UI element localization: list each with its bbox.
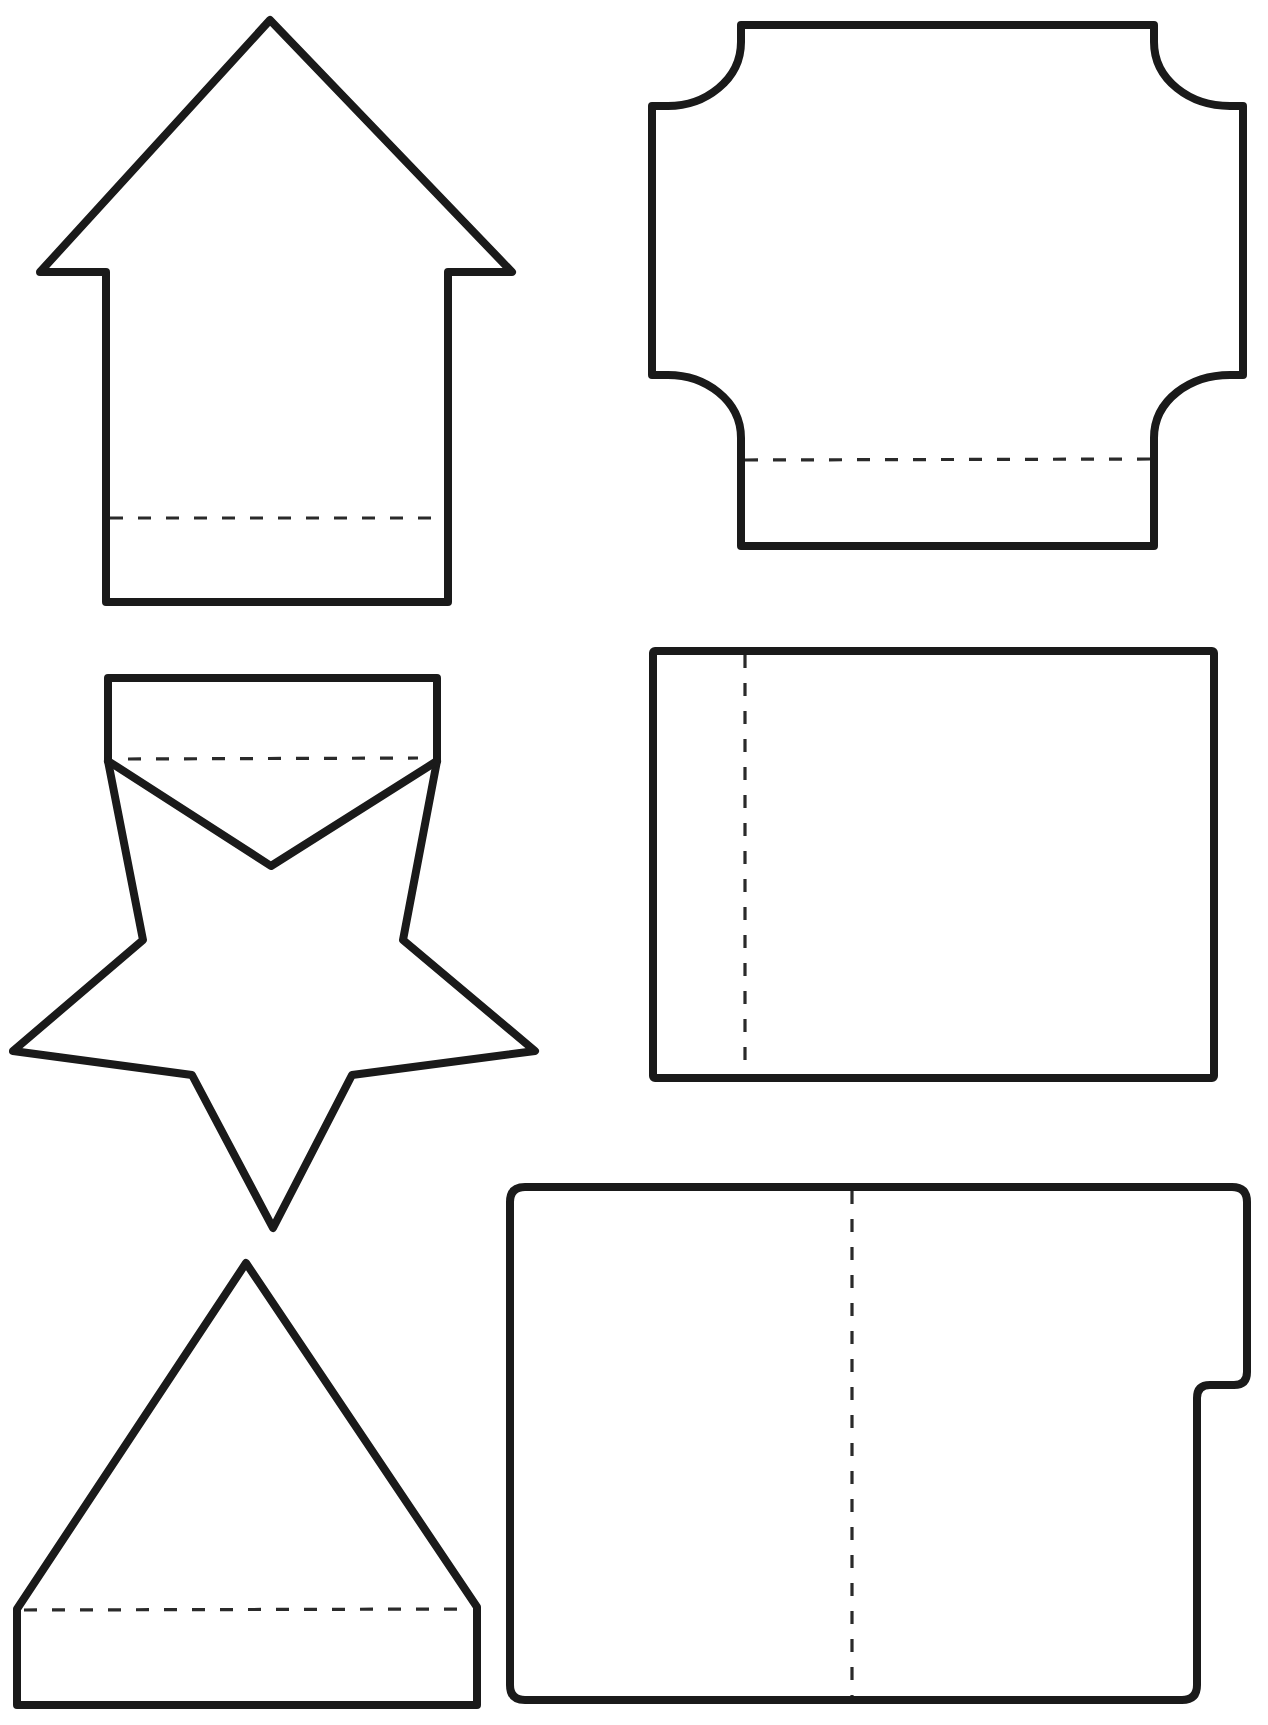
triangle-shape [17,1263,477,1705]
triangle-outline [17,1263,477,1705]
rectangle-shape [653,651,1214,1078]
house-outline [40,20,512,602]
plaque-outline [652,25,1243,546]
star-shape [13,678,535,1228]
star-outline [13,678,535,1228]
cutout-template-sheet [0,0,1268,1725]
folder-shape [510,1187,1247,1700]
rectangle-outline [653,651,1214,1078]
plaque-fold-line [745,459,1150,460]
house-shape [40,20,512,602]
plaque-shape [652,25,1243,546]
folder-outline [510,1187,1247,1700]
